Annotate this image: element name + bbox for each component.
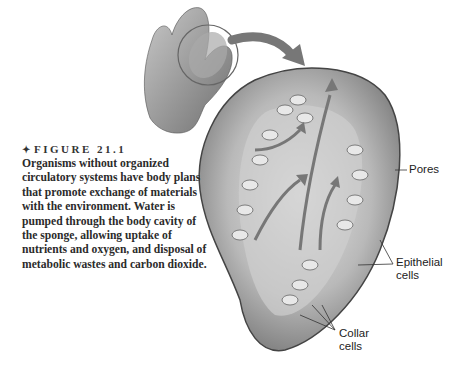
figure-caption-text: Organisms without organized circulatory … — [22, 157, 212, 272]
figure-caption: ✦FIGURE 21.1 Organisms without organized… — [22, 143, 212, 272]
figure-heading: ✦FIGURE 21.1 — [22, 143, 212, 155]
magnify-arrow-icon — [232, 37, 292, 55]
label-collar-line1: Collar — [339, 327, 369, 340]
label-epithelial-line1: Epithelial — [396, 256, 443, 269]
label-collar-cells: Collar cells — [339, 327, 369, 353]
label-epithelial-cells: Epithelial cells — [396, 256, 443, 282]
label-epithelial-line2: cells — [396, 269, 443, 282]
figure-number: FIGURE 21.1 — [34, 143, 126, 155]
label-pores: Pores — [409, 163, 439, 176]
label-collar-line2: cells — [339, 340, 369, 353]
sponge-cross-section — [199, 68, 400, 351]
diamond-bullet-icon: ✦ — [22, 144, 30, 155]
